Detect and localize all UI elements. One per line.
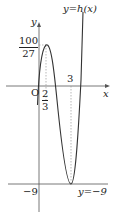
max-x-denominator: 3	[42, 102, 48, 112]
max-x-numerator: 2	[42, 89, 48, 99]
y-axis-arrow-icon	[37, 22, 41, 27]
curve-label: y=h(x)	[63, 4, 97, 14]
max-y-numerator: 100	[19, 36, 38, 46]
x-axis-label: x	[103, 89, 109, 99]
max-y-value: 100 27	[19, 36, 38, 59]
graph-canvas	[0, 0, 117, 216]
max-y-denominator: 27	[22, 49, 35, 59]
horizontal-line-label: y=−9	[78, 187, 107, 197]
y-axis-label: y	[31, 17, 37, 27]
max-x-value: 2 3	[42, 89, 48, 112]
min-x-value: 3	[67, 74, 73, 84]
origin-label: O	[31, 88, 39, 98]
y-min-tick-label: −9	[23, 187, 38, 197]
